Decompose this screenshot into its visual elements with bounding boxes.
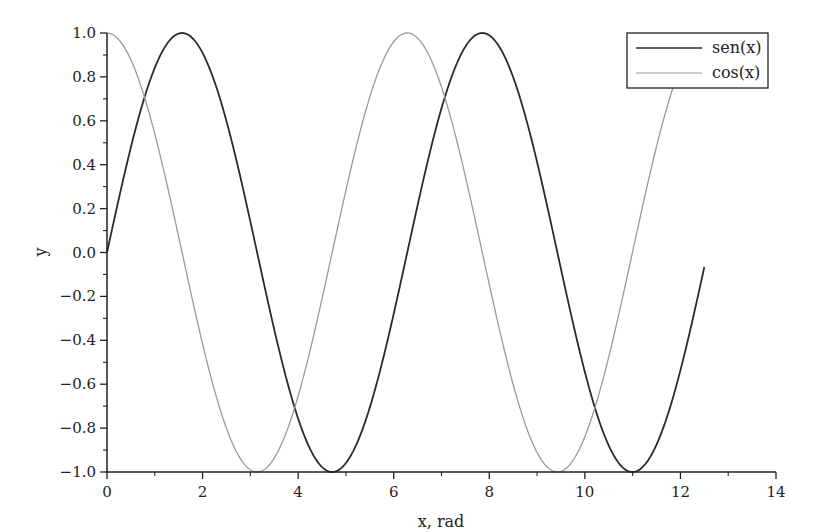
y-tick-label: −0.2 [60,287,96,305]
x-axis-label: x, rad [418,512,465,531]
y-tick-label: 0.2 [72,200,96,218]
legend-label-sin: sen(x) [712,38,762,57]
y-tick-label: 0.4 [72,156,96,174]
x-tick-label: 2 [198,483,208,501]
y-axis-ticks: 1.00.80.60.40.20.0−0.2−0.4−0.6−0.8−1.0 [60,24,107,481]
plot-curves [107,33,704,472]
sin-curve [107,33,704,472]
y-axis-label: y [31,247,50,257]
x-tick-label: 8 [485,483,495,501]
y-tick-label: 0.0 [72,244,96,262]
axes: 1.00.80.60.40.20.0−0.2−0.4−0.6−0.8−1.0 0… [60,24,786,501]
x-tick-label: 0 [102,483,112,501]
x-axis-ticks: 02468101214 [102,472,785,501]
y-tick-label: 0.8 [72,68,96,86]
cos-curve [107,33,704,472]
legend: sen(x) cos(x) [627,33,768,88]
x-tick-label: 10 [575,483,594,501]
legend-label-cos: cos(x) [712,63,760,82]
y-tick-label: −1.0 [60,463,96,481]
x-tick-label: 14 [766,483,785,501]
x-tick-label: 6 [389,483,399,501]
x-tick-label: 12 [671,483,690,501]
y-tick-label: 1.0 [72,24,96,42]
y-tick-label: −0.6 [60,375,96,393]
y-tick-label: −0.4 [60,331,96,349]
y-tick-label: 0.6 [72,112,96,130]
y-tick-label: −0.8 [60,419,96,437]
x-tick-label: 4 [293,483,303,501]
line-chart: 1.00.80.60.40.20.0−0.2−0.4−0.6−0.8−1.0 0… [0,0,818,532]
